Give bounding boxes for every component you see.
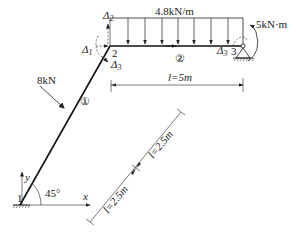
point-load-label: 8kN [37, 74, 56, 86]
distributed-load [110, 18, 243, 46]
incline-upper-label: l=2.5m [145, 128, 175, 160]
fixed-support-node1 [13, 205, 30, 208]
x-axis-label: x [82, 190, 88, 202]
span-dimension-label: l=5m [168, 71, 192, 83]
node-1-label: 1 [17, 192, 23, 204]
y-axis-label: y [24, 171, 30, 183]
delta2-label: Δ2 [102, 9, 113, 23]
structural-frame-diagram: 4.8kN/m Δ2 Δ1 2 Δ3 ② ① 3 Δ3 5kN·m [0, 0, 296, 235]
angle-arc [33, 184, 41, 205]
delta3-label: Δ3 [110, 58, 121, 72]
distributed-load-label: 4.8kN/m [155, 5, 194, 17]
moment-label: 5kN·m [256, 18, 288, 30]
delta1-label: Δ1 [81, 43, 92, 57]
node-3-label: 3 [231, 45, 237, 57]
moment-arrow [248, 25, 258, 61]
member-1-label: ① [80, 95, 90, 107]
angle-label: 45° [45, 187, 60, 199]
member-1 [20, 46, 110, 205]
member-2-label: ② [175, 52, 185, 64]
point-load-arrow [40, 86, 64, 108]
incline-lower-label: l=2.5m [100, 183, 130, 215]
